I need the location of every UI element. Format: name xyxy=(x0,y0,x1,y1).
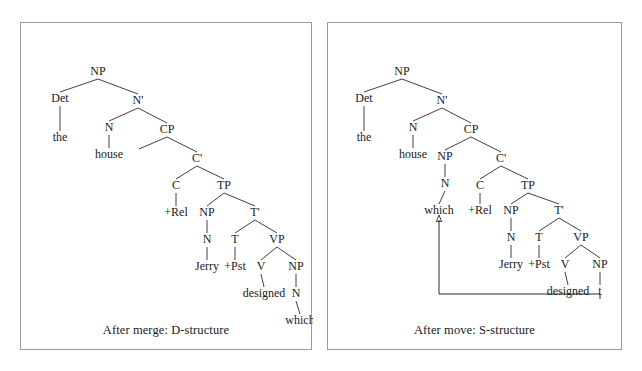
tree-node-r-the: the xyxy=(357,130,372,144)
panel-d-structure: NPDetN'theNCPhouseC'CTP+RelNPT'NTVPJerry… xyxy=(20,22,312,350)
tree-node-l-tp: TP xyxy=(217,178,231,192)
tree-node-r-np: NP xyxy=(394,64,410,78)
tree-node-r-rel: +Rel xyxy=(468,203,492,217)
tree-node-r-tp: TP xyxy=(521,178,535,192)
tree-node-l-pst: +Pst xyxy=(224,259,246,273)
tree-branch xyxy=(98,79,138,94)
tree-node-l-tbar: T' xyxy=(250,205,260,219)
tree-node-r-np3: NP xyxy=(592,257,608,271)
tree-node-r-np2: NP xyxy=(503,203,519,217)
tree-node-r-n2: N xyxy=(507,230,516,244)
tree-node-l-c: C xyxy=(172,178,180,192)
tree-node-l-nbar: N' xyxy=(133,93,144,107)
tree-node-l-the: the xyxy=(53,130,68,144)
tree-node-r-vp: VP xyxy=(573,230,589,244)
tree-node-r-nbar: N' xyxy=(437,93,448,107)
tree-node-l-det: Det xyxy=(51,91,69,105)
tree-diagram-s-structure: NPDetN'theNCPhouseNPC'NCTPwhich+RelNPT'N… xyxy=(328,23,623,351)
tree-node-l-jerry: Jerry xyxy=(195,259,219,273)
tree-node-l-house: house xyxy=(95,147,123,161)
tree-node-r-pst: +Pst xyxy=(528,257,550,271)
tree-node-l-n2: N xyxy=(203,232,212,246)
tree-diagram-d-structure: NPDetN'theNCPhouseC'CTP+RelNPT'NTVPJerry… xyxy=(21,23,313,351)
tree-branch xyxy=(138,108,167,123)
tree-node-r-v: V xyxy=(561,257,570,271)
caption-s-structure: After move: S-structure xyxy=(328,323,621,338)
tree-node-r-which: which xyxy=(424,203,453,217)
tree-node-l-v: V xyxy=(257,259,266,273)
tree-branch xyxy=(167,137,197,152)
tree-node-r-cp: CP xyxy=(464,122,479,136)
tree-node-l-np2: NP xyxy=(199,205,215,219)
tree-node-r-trace: t xyxy=(598,284,602,298)
tree-branch xyxy=(413,108,442,121)
tree-node-r-tbar: T' xyxy=(554,203,564,217)
tree-node-l-np3: NP xyxy=(288,259,304,273)
tree-node-r-npspec: NP xyxy=(437,149,453,163)
tree-node-l-cbar: C' xyxy=(192,151,202,165)
tree-node-r-jerry: Jerry xyxy=(499,257,523,271)
tree-branch xyxy=(471,137,501,152)
tree-node-r-house: house xyxy=(399,147,427,161)
tree-node-l-n3: N xyxy=(292,286,301,300)
tree-node-l-t: T xyxy=(231,232,239,246)
syntax-tree-figure: NPDetN'theNCPhouseC'CTP+RelNPT'NTVPJerry… xyxy=(0,0,642,371)
tree-node-r-n: N xyxy=(409,120,418,134)
tree-node-r-c: C xyxy=(476,178,484,192)
tree-node-r-nspec: N xyxy=(441,176,450,190)
tree-branch xyxy=(139,137,167,149)
tree-node-l-designed: designed xyxy=(243,286,286,300)
tree-node-r-cbar: C' xyxy=(496,151,506,165)
tree-node-l-rel: +Rel xyxy=(164,205,188,219)
tree-node-l-vp: VP xyxy=(269,232,285,246)
tree-node-l-np: NP xyxy=(90,64,106,78)
tree-branch xyxy=(402,79,442,94)
tree-node-r-designed: designed xyxy=(547,284,590,298)
caption-d-structure: After merge: D-structure xyxy=(21,323,311,338)
panel-s-structure: NPDetN'theNCPhouseNPC'NCTPwhich+RelNPT'N… xyxy=(327,22,622,350)
tree-branch xyxy=(109,108,138,121)
tree-node-l-cp: CP xyxy=(160,122,175,136)
tree-node-l-n: N xyxy=(105,120,114,134)
tree-branch xyxy=(442,108,471,123)
tree-node-r-t: T xyxy=(535,230,543,244)
tree-node-r-det: Det xyxy=(355,91,373,105)
